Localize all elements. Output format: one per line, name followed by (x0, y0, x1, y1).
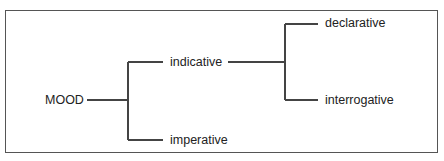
node-mood: MOOD (45, 93, 84, 107)
node-interrogative: interrogative (325, 93, 394, 107)
node-indicative: indicative (170, 55, 222, 69)
node-declarative: declarative (325, 16, 385, 30)
node-imperative: imperative (170, 133, 228, 147)
